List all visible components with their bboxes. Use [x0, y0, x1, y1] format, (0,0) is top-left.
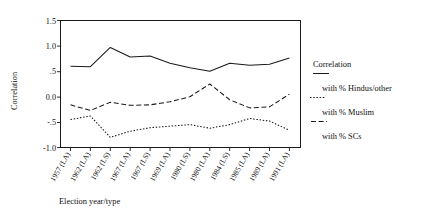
legend-label-muslim: with % Muslim: [322, 108, 375, 117]
series-group: [71, 47, 290, 137]
legend-label-scs: with % SCs: [322, 132, 362, 141]
y-tick-label: 0.0: [46, 93, 56, 102]
x-axis-title: Election year/type: [59, 197, 120, 206]
y-tick-label: 1.5: [46, 17, 56, 26]
legend-title: Correlation: [313, 60, 352, 69]
y-tick-label: -.5: [47, 118, 56, 127]
x-axis-tick-labels: 1957 (LA) 1962 (LA) 1962 (LS) 1967 (LA) …: [48, 150, 291, 183]
plot-frame: [61, 21, 301, 148]
chart-figure: 1.5 1.0 .5 0.0 -.5 -1.0: [0, 0, 427, 218]
y-tick-label: .5: [50, 67, 56, 76]
correlation-line-chart: 1.5 1.0 .5 0.0 -.5 -1.0: [0, 0, 427, 218]
series-line-scs: [71, 116, 290, 137]
y-axis-title: Correlation: [10, 71, 19, 110]
y-tick-label: -1.0: [43, 144, 56, 153]
series-line-hindus-other: [71, 47, 290, 71]
chart-legend: Correlation with % Hindus/other with % M…: [310, 60, 392, 141]
y-axis-tickmarks: [57, 21, 61, 148]
series-line-muslim: [71, 84, 290, 110]
y-axis-tick-labels: 1.5 1.0 .5 0.0 -.5 -1.0: [43, 17, 56, 153]
y-tick-label: 1.0: [46, 42, 56, 51]
legend-label-hindus-other: with % Hindus/other: [322, 84, 392, 93]
